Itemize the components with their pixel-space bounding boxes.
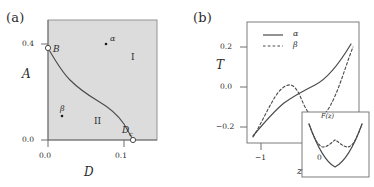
panel-a-ytick-label-0: 0.4 — [22, 39, 34, 48]
panel-a-plot — [0, 0, 187, 187]
figure-container: (a) 0.4 0.0 — [0, 0, 374, 187]
panel-a-ytick-label-1: 0.0 — [22, 135, 34, 144]
panel-b-ytick-label-1: 0.0 — [220, 82, 232, 91]
panel-b-y-axis-title: T — [216, 58, 224, 72]
point-Dc-marker — [130, 137, 135, 142]
panel-a-xtick-label-0: 0.0 — [39, 151, 51, 160]
panel-a-y-axis-title: A — [22, 67, 31, 81]
legend-label-beta: β — [293, 40, 298, 49]
point-label-beta: β — [60, 104, 65, 113]
inset-title: F(z) — [321, 112, 334, 120]
point-alpha-marker — [105, 43, 108, 46]
panel-b-plot — [187, 0, 374, 187]
point-label-alpha: α — [110, 34, 115, 43]
panel-a-xtick-label-1: 0.1 — [115, 151, 127, 160]
panel-b-xtick-label-0: −1 — [255, 153, 266, 162]
point-label-Dc-sub: c — [129, 130, 132, 137]
point-beta-marker — [61, 115, 64, 118]
panel-a-plot-area — [48, 20, 157, 140]
panel-a-x-axis-title: D — [84, 165, 94, 179]
point-label-Dc: Dc — [122, 125, 133, 137]
panel-b-ytick-label-0: 0.2 — [220, 42, 232, 51]
panel-b: (b) 0.2 0.0 — [187, 0, 374, 187]
panel-b-ytick-label-2: −0.2 — [216, 122, 234, 131]
panel-b-x-axis-title: z — [297, 165, 302, 176]
panel-a: (a) 0.4 0.0 — [0, 0, 187, 187]
legend-label-alpha: α — [293, 29, 298, 38]
panel-b-xtick-label-1: 0 — [317, 153, 322, 162]
region-label-II: II — [94, 116, 101, 126]
point-label-B: B — [53, 44, 60, 54]
region-label-I: I — [131, 52, 135, 62]
point-B-marker — [45, 45, 50, 50]
